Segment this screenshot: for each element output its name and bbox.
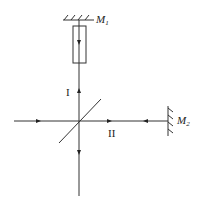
interferometer-diagram: M1 I II M2 xyxy=(0,0,202,212)
arrow-down-output-icon xyxy=(77,150,81,155)
arm-ii-label: II xyxy=(108,127,116,139)
mirror-m1-label: M1 xyxy=(95,13,109,27)
arrow-down-icon xyxy=(77,40,81,45)
arrow-left-icon xyxy=(143,119,148,123)
arrow-up-icon xyxy=(77,88,81,93)
mirror-m2 xyxy=(168,106,173,136)
mirror-m2-hatching xyxy=(168,108,173,133)
arrow-right-icon xyxy=(36,119,41,123)
mirror-m1-hatching xyxy=(64,15,89,20)
arm-i-label: I xyxy=(66,86,70,98)
mirror-m1 xyxy=(63,15,94,20)
mirror-m2-label: M2 xyxy=(176,114,190,128)
arrow-right-arm2-icon xyxy=(107,119,112,123)
